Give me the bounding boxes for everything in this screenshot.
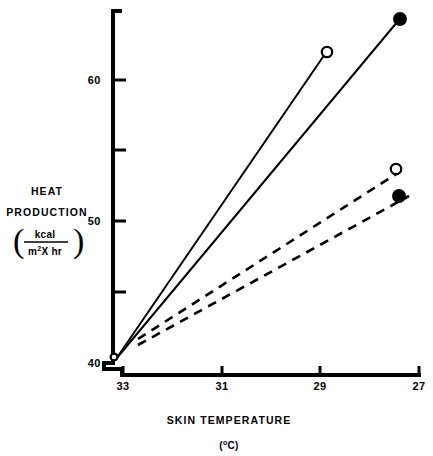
marker-dashed-shallow-filled-endpoint: [393, 190, 405, 202]
unit-denominator: m2X hr: [28, 245, 62, 257]
x-axis-title: SKIN TEMPERATURE: [167, 414, 292, 426]
unit-numerator: kcal: [35, 229, 56, 240]
series-line-solid-steep-filled: [116, 21, 398, 359]
series-line-dashed-shallow-filled: [138, 196, 409, 345]
x-tick-label-31: 31: [215, 380, 228, 392]
y-tick-label-60: 60: [88, 74, 101, 86]
chart-figure: 60 50 40 33 31 29 27: [0, 0, 433, 456]
x-tick-label-27: 27: [412, 380, 425, 392]
y-tick-label-40: 40: [88, 357, 101, 369]
y-axis-tick-labels: 60 50 40: [88, 74, 101, 369]
series-line-dashed-shallow-open: [138, 169, 404, 339]
x-axis-title-group: SKIN TEMPERATURE (oC): [167, 414, 292, 451]
heat-production-line-chart: 60 50 40 33 31 29 27: [0, 0, 433, 456]
marker-origin-open-circle: [111, 354, 118, 361]
marker-solid-steep-filled-endpoint: [394, 13, 406, 25]
x-tick-label-29: 29: [313, 380, 326, 392]
data-series-group: [116, 21, 409, 359]
unit-left-paren: (: [13, 222, 24, 260]
y-axis-title-group: HEAT PRODUCTION ( ) kcal m2X hr: [6, 185, 88, 260]
unit-right-paren: ): [73, 222, 84, 260]
y-axis-unit-fraction: ( ) kcal m2X hr: [13, 222, 84, 260]
y-axis-line: [104, 11, 122, 375]
x-axis-unit: (oC): [219, 439, 238, 451]
y-tick-label-50: 50: [88, 215, 101, 227]
y-axis-title-line-2: PRODUCTION: [6, 206, 88, 218]
x-tick-label-33: 33: [116, 380, 129, 392]
marker-solid-steep-open-endpoint: [322, 47, 332, 57]
axis-group: [104, 11, 421, 375]
x-axis-tick-labels: 33 31 29 27: [116, 380, 425, 392]
y-axis-title-line-1: HEAT: [31, 185, 63, 197]
unit-denominator-base: m: [28, 246, 37, 257]
series-line-solid-steep-open: [116, 54, 325, 359]
marker-dashed-shallow-open-endpoint: [391, 164, 401, 174]
unit-denominator-rest: X hr: [41, 246, 62, 257]
